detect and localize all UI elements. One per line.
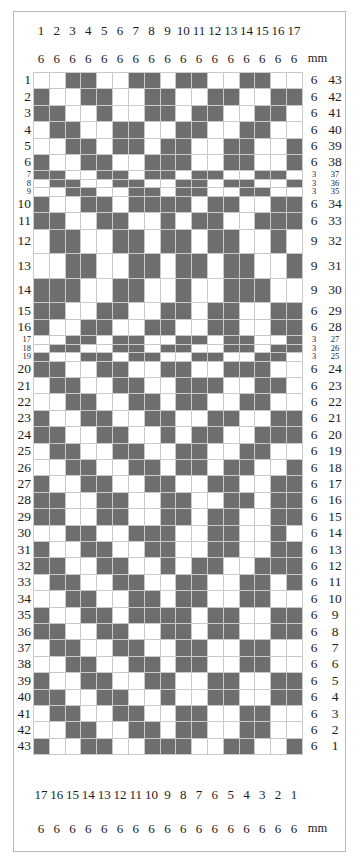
pattern-cell[interactable] — [128, 229, 144, 254]
pattern-cell[interactable] — [81, 122, 97, 138]
pattern-cell[interactable] — [65, 229, 81, 254]
pattern-cell[interactable] — [287, 460, 303, 476]
pattern-cell[interactable] — [144, 73, 160, 89]
pattern-cell[interactable] — [49, 378, 65, 394]
pattern-cell[interactable] — [65, 460, 81, 476]
pattern-cell[interactable] — [239, 378, 255, 394]
pattern-cell[interactable] — [223, 344, 239, 353]
pattern-cell[interactable] — [287, 558, 303, 574]
pattern-cell[interactable] — [65, 476, 81, 492]
pattern-cell[interactable] — [81, 278, 97, 303]
pattern-cell[interactable] — [223, 122, 239, 138]
pattern-cell[interactable] — [287, 640, 303, 656]
pattern-cell[interactable] — [128, 361, 144, 377]
pattern-cell[interactable] — [207, 673, 223, 689]
pattern-cell[interactable] — [239, 656, 255, 672]
pattern-cell[interactable] — [223, 73, 239, 89]
pattern-cell[interactable] — [97, 344, 113, 353]
pattern-cell[interactable] — [271, 353, 287, 362]
pattern-cell[interactable] — [65, 171, 81, 180]
pattern-cell[interactable] — [160, 607, 176, 623]
pattern-cell[interactable] — [176, 336, 192, 345]
pattern-cell[interactable] — [97, 427, 113, 443]
pattern-cell[interactable] — [192, 492, 208, 508]
pattern-cell[interactable] — [271, 196, 287, 212]
pattern-cell[interactable] — [239, 509, 255, 525]
pattern-cell[interactable] — [239, 443, 255, 459]
pattern-cell[interactable] — [223, 171, 239, 180]
pattern-cell[interactable] — [192, 689, 208, 705]
pattern-cell[interactable] — [255, 361, 271, 377]
pattern-cell[interactable] — [192, 394, 208, 410]
pattern-cell[interactable] — [113, 525, 129, 541]
pattern-cell[interactable] — [239, 541, 255, 557]
pattern-cell[interactable] — [239, 171, 255, 180]
pattern-cell[interactable] — [239, 623, 255, 639]
pattern-cell[interactable] — [34, 278, 50, 303]
pattern-cell[interactable] — [239, 154, 255, 170]
pattern-cell[interactable] — [49, 344, 65, 353]
pattern-cell[interactable] — [128, 336, 144, 345]
pattern-cell[interactable] — [223, 673, 239, 689]
pattern-cell[interactable] — [128, 122, 144, 138]
pattern-cell[interactable] — [160, 73, 176, 89]
pattern-cell[interactable] — [287, 254, 303, 279]
pattern-cell[interactable] — [160, 574, 176, 590]
pattern-cell[interactable] — [49, 196, 65, 212]
pattern-cell[interactable] — [65, 336, 81, 345]
pattern-cell[interactable] — [65, 525, 81, 541]
pattern-cell[interactable] — [49, 73, 65, 89]
pattern-cell[interactable] — [207, 171, 223, 180]
pattern-cell[interactable] — [239, 689, 255, 705]
pattern-cell[interactable] — [255, 591, 271, 607]
pattern-cell[interactable] — [255, 558, 271, 574]
pattern-cell[interactable] — [144, 122, 160, 138]
pattern-cell[interactable] — [97, 171, 113, 180]
pattern-cell[interactable] — [255, 138, 271, 154]
pattern-cell[interactable] — [128, 105, 144, 121]
pattern-cell[interactable] — [287, 344, 303, 353]
pattern-cell[interactable] — [65, 427, 81, 443]
pattern-cell[interactable] — [207, 607, 223, 623]
pattern-cell[interactable] — [287, 278, 303, 303]
pattern-cell[interactable] — [144, 476, 160, 492]
pattern-cell[interactable] — [176, 525, 192, 541]
pattern-cell[interactable] — [223, 443, 239, 459]
pattern-cell[interactable] — [192, 303, 208, 319]
pattern-cell[interactable] — [223, 410, 239, 426]
pattern-cell[interactable] — [97, 188, 113, 197]
pattern-cell[interactable] — [81, 254, 97, 279]
pattern-cell[interactable] — [239, 303, 255, 319]
pattern-cell[interactable] — [49, 509, 65, 525]
pattern-cell[interactable] — [223, 196, 239, 212]
pattern-cell[interactable] — [97, 722, 113, 738]
pattern-cell[interactable] — [207, 427, 223, 443]
pattern-cell[interactable] — [176, 640, 192, 656]
pattern-cell[interactable] — [223, 229, 239, 254]
pattern-cell[interactable] — [34, 541, 50, 557]
pattern-cell[interactable] — [81, 525, 97, 541]
pattern-cell[interactable] — [49, 476, 65, 492]
pattern-cell[interactable] — [34, 171, 50, 180]
pattern-cell[interactable] — [176, 492, 192, 508]
pattern-cell[interactable] — [144, 689, 160, 705]
pattern-cell[interactable] — [223, 656, 239, 672]
pattern-cell[interactable] — [223, 278, 239, 303]
pattern-cell[interactable] — [128, 303, 144, 319]
pattern-cell[interactable] — [97, 460, 113, 476]
pattern-cell[interactable] — [113, 574, 129, 590]
pattern-cell[interactable] — [223, 353, 239, 362]
pattern-cell[interactable] — [128, 394, 144, 410]
pattern-cell[interactable] — [144, 378, 160, 394]
pattern-cell[interactable] — [207, 574, 223, 590]
pattern-cell[interactable] — [160, 705, 176, 721]
pattern-cell[interactable] — [65, 574, 81, 590]
pattern-cell[interactable] — [223, 179, 239, 188]
pattern-cell[interactable] — [128, 179, 144, 188]
pattern-cell[interactable] — [271, 73, 287, 89]
pattern-cell[interactable] — [160, 509, 176, 525]
pattern-cell[interactable] — [192, 607, 208, 623]
pattern-cell[interactable] — [113, 154, 129, 170]
pattern-cell[interactable] — [65, 73, 81, 89]
pattern-cell[interactable] — [207, 476, 223, 492]
